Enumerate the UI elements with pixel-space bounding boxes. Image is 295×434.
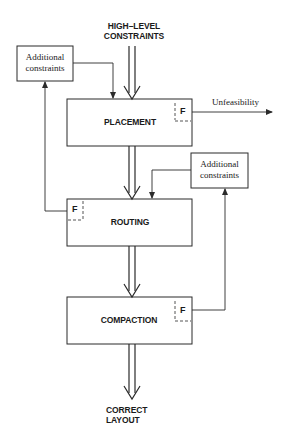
left-constraints-to-placement-line xyxy=(73,63,113,98)
compaction-failure-flag: F xyxy=(180,305,186,315)
input-label-line2: CONSTRAINTS xyxy=(99,31,169,41)
right-additional-line2: constraints xyxy=(191,170,248,181)
routing-failure-flag: F xyxy=(72,204,78,214)
output-label-line2: LAYOUT xyxy=(106,415,166,425)
unfeasibility-label: Unfeasibility xyxy=(212,97,259,108)
compaction-feedback-line xyxy=(192,189,225,310)
left-additional-constraints-label: Additional constraints xyxy=(17,52,73,74)
placement-failure-flag: F xyxy=(180,106,186,116)
left-additional-line2: constraints xyxy=(17,63,73,74)
compaction-label: COMPACTION xyxy=(84,315,174,325)
input-label-line1: HIGH–LEVEL xyxy=(99,21,169,31)
output-label-line1: CORRECT xyxy=(106,405,166,415)
right-additional-constraints-label: Additional constraints xyxy=(191,159,248,181)
layout-flow-diagram: HIGH–LEVEL CONSTRAINTS PLACEMENT ROUTING… xyxy=(0,0,295,434)
left-additional-line1: Additional xyxy=(17,52,73,63)
placement-label: PLACEMENT xyxy=(90,117,170,127)
output-label: CORRECT LAYOUT xyxy=(106,405,166,425)
right-additional-line1: Additional xyxy=(191,159,248,170)
input-label: HIGH–LEVEL CONSTRAINTS xyxy=(99,21,169,41)
routing-feedback-line xyxy=(45,82,67,211)
routing-label: ROUTING xyxy=(90,217,170,227)
right-constraints-to-routing-line xyxy=(152,170,191,198)
